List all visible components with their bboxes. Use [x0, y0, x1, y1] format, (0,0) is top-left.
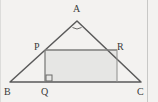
vertex-label-c: C: [137, 87, 144, 97]
geometry-figure: A P R B Q C: [0, 0, 158, 102]
vertex-label-p: P: [34, 42, 40, 52]
apex-angle-arc-icon: [73, 28, 82, 30]
vertex-label-r: R: [117, 42, 124, 52]
vertex-label-q: Q: [41, 87, 48, 97]
vertex-label-b: B: [4, 87, 11, 97]
figure-frame-left: [0, 0, 1, 102]
vertex-label-a: A: [73, 4, 80, 14]
shaded-rectangle: [45, 50, 117, 82]
figure-frame-right: [147, 0, 148, 102]
geometry-canvas: [0, 0, 158, 102]
